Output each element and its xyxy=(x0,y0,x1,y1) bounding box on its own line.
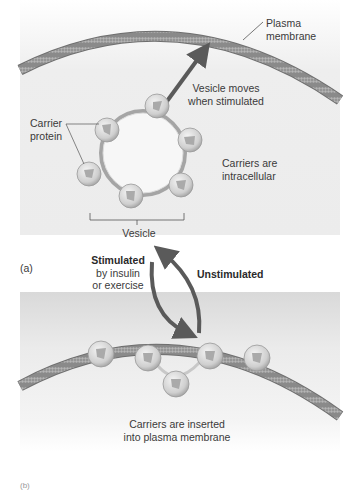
carrier-protein-leader-lines xyxy=(66,124,99,164)
vesicle-moves-label: Vesicle moves when stimulated xyxy=(186,82,266,107)
panel-a-label: (a) xyxy=(20,262,33,275)
stimulated-label: Stimulated by insulin or exercise xyxy=(88,254,148,292)
plasma-membrane-top xyxy=(20,36,340,100)
panel-b-label: (b) xyxy=(20,482,30,490)
carrier-protein-label: Carrier protein xyxy=(30,117,62,142)
plasma-membrane-leader-line xyxy=(243,22,263,40)
carriers-inserted-label: Carriers are inserted into plasma membra… xyxy=(112,418,242,443)
carriers-intracellular-label: Carriers are intracellular xyxy=(222,157,277,182)
vesicle-label: Vesicle xyxy=(117,227,161,240)
unstimulated-label: Unstimulated xyxy=(197,268,264,281)
plasma-membrane-label: Plasma membrane xyxy=(266,17,316,42)
vesicle-bracket xyxy=(90,213,184,225)
